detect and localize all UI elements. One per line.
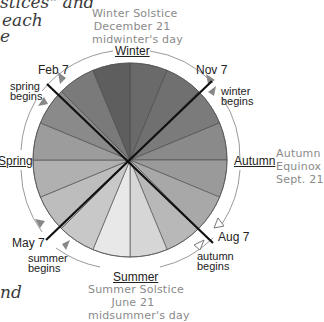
season-summer: Summer [113, 270, 158, 284]
summer-begins-label: summer begins [28, 253, 68, 273]
date-nov-7: Nov 7 [196, 63, 227, 77]
autumn-equinox-line3: Sept. 21 [276, 173, 324, 186]
winter-solstice-label: Winter Solstice December 21 midwinter's … [92, 7, 172, 46]
date-may-7: May 7 [12, 236, 45, 250]
summer-solstice-label: Summer Solstice June 21 midsummer's day [88, 283, 178, 322]
summer-solstice-line1: Summer Solstice [88, 283, 178, 296]
winter-begins-line2: begins [221, 96, 253, 106]
date-aug-7: Aug 7 [218, 230, 249, 244]
date-feb-7: Feb 7 [38, 63, 69, 77]
autumn-begins-label: autumn begins [197, 251, 234, 271]
autumn-equinox-line2: Equinox [276, 160, 324, 173]
winter-solstice-line2: December 21 [92, 20, 172, 33]
text-fragment-bottom: nd [0, 282, 22, 302]
spring-begins-line2: begins [10, 91, 42, 101]
arrow-icon [208, 86, 216, 96]
summer-begins-line2: begins [28, 263, 68, 273]
winter-solstice-line1: Winter Solstice [92, 7, 172, 20]
text-fragment-top-3: e [0, 26, 10, 46]
arrow-icon [194, 240, 204, 250]
autumn-equinox-label: Autumn Equinox Sept. 21 [276, 147, 324, 186]
spring-begins-label: spring begins [10, 81, 42, 101]
winter-begins-label: winter begins [221, 86, 253, 106]
season-winter: Winter [115, 44, 150, 58]
autumn-equinox-line1: Autumn [276, 147, 324, 160]
autumn-begins-line2: begins [197, 261, 234, 271]
arrow-icon [62, 240, 70, 250]
season-autumn: Autumn [234, 154, 275, 168]
season-spring: Spring [0, 154, 33, 168]
summer-solstice-line2: June 21 [88, 296, 178, 309]
summer-solstice-line3: midsummer's day [88, 309, 178, 322]
